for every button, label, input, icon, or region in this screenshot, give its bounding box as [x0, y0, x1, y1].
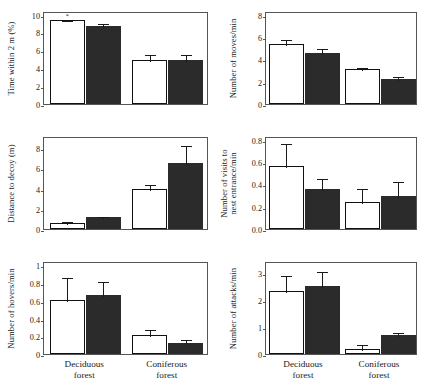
error-bar-stem [398, 77, 399, 81]
bar [345, 202, 380, 229]
panel-number-of-moves: 02468Number of moves/min [0, 0, 429, 391]
error-bar-cap [357, 345, 368, 346]
y-ticklabel: 0.4 [30, 315, 40, 324]
y-tick [263, 164, 266, 165]
y-ticklabel: 0 [36, 351, 40, 360]
x-group-label-line2: forest [283, 370, 322, 381]
y-tick [41, 356, 44, 357]
y-ticklabel: 0.4 [252, 181, 262, 190]
y-axis-ticklabels-number-of-hovers: 00.20.40.60.81 [21, 262, 43, 355]
bar [168, 60, 203, 104]
y-tick [41, 321, 44, 322]
y-axis-title-visits-to-nest-entrance: Number of visits tonest entrance/min [220, 137, 237, 230]
y-tick [41, 52, 44, 53]
error-bar-cap [98, 217, 109, 218]
panel-distance-to-decoy: 02468Distance to decoy (m) [0, 0, 429, 391]
y-ticklabel: 6 [258, 34, 262, 43]
y-ticklabel: 2 [36, 83, 40, 92]
y-axis-ticklabels-distance-to-decoy: 02468 [21, 137, 43, 230]
y-tick [263, 356, 266, 357]
y-ticklabel: 0 [36, 101, 40, 110]
error-bar-stem [150, 185, 151, 191]
error-bar-stem [322, 179, 323, 192]
y-tick [41, 303, 44, 304]
bar [381, 196, 416, 229]
bar [305, 53, 340, 104]
bar [381, 79, 416, 104]
y-ticklabel: 6 [36, 165, 40, 174]
plot-area-visits-to-nest-entrance [265, 137, 417, 230]
plot-area-number-of-moves [265, 12, 417, 105]
bar [168, 163, 203, 229]
x-group-label: Coniferousforest [359, 359, 400, 381]
y-ticklabel: 2 [36, 205, 40, 214]
error-bar-cap [281, 144, 292, 145]
x-group-label-line2: forest [65, 370, 104, 381]
y-axis-title-number-of-hovers: Number of hovers/min [7, 262, 16, 355]
y-tick [41, 70, 44, 71]
x-group-label: Coniferousforest [146, 359, 187, 381]
x-group-label-line1: Deciduous [283, 359, 322, 370]
error-bar-cap [181, 146, 192, 147]
figure-root: *0246810Time within 2 m (%)02468Number o… [0, 0, 429, 391]
bar [50, 300, 85, 354]
bar [132, 335, 167, 354]
bar [132, 189, 167, 229]
error-bar-stem [398, 182, 399, 198]
y-ticklabel: 2 [258, 297, 262, 306]
y-tick [41, 170, 44, 171]
y-ticklabel: 0.6 [30, 297, 40, 306]
x-group-label: Deciduousforest [65, 359, 104, 381]
error-bar-cap [357, 68, 368, 69]
error-bar-stem [362, 68, 363, 71]
error-bar-cap [145, 55, 156, 56]
y-tick [263, 142, 266, 143]
error-bar-cap [393, 333, 404, 334]
y-tick [263, 17, 266, 18]
error-bar-cap [181, 340, 192, 341]
x-group-label-line2: forest [359, 370, 400, 381]
x-group-label: Deciduousforest [283, 359, 322, 381]
panel-time-within-2m: *0246810Time within 2 m (%) [0, 0, 429, 391]
y-axis-title-number-of-moves: Number of moves/min [229, 12, 238, 105]
y-axis-title-time-within-2m: Time within 2 m (%) [7, 12, 16, 105]
error-bar-cap [317, 49, 328, 50]
y-tick [41, 17, 44, 18]
x-group-label-line1: Deciduous [65, 359, 104, 370]
y-tick [263, 302, 266, 303]
y-axis-ticklabels-time-within-2m: 0246810 [21, 12, 43, 105]
error-bar-cap [98, 24, 109, 25]
y-ticklabel: 4 [36, 65, 40, 74]
plot-area-distance-to-decoy [43, 137, 208, 230]
y-tick [41, 191, 44, 192]
y-tick [41, 285, 44, 286]
error-bar-stem [286, 144, 287, 167]
error-bar-cap [181, 55, 192, 56]
bar [345, 349, 380, 354]
panel-number-of-hovers: 00.20.40.60.81Number of hovers/minDecidu… [0, 0, 429, 391]
y-axis-title-number-of-attacks: Number of attacks/min [229, 262, 238, 355]
bar [50, 223, 85, 229]
y-ticklabel: 3 [258, 270, 262, 279]
plot-area-time-within-2m: * [43, 12, 208, 105]
bar [86, 295, 121, 354]
bar [269, 291, 304, 354]
bar [50, 20, 85, 104]
y-tick [41, 338, 44, 339]
y-axis-title-line2: nest entrance/min [229, 137, 238, 230]
error-bar-cap [357, 189, 368, 190]
error-bar-cap [98, 282, 109, 283]
error-bar-stem [322, 49, 323, 56]
error-bar-cap [393, 182, 404, 183]
error-bar-stem [67, 21, 68, 22]
y-ticklabel: 0.8 [252, 136, 262, 145]
error-bar-stem [186, 55, 187, 62]
error-bar-cap [145, 185, 156, 186]
error-bar-stem [286, 276, 287, 293]
error-bar-stem [362, 189, 363, 204]
error-bar-stem [286, 40, 287, 46]
y-tick [263, 231, 266, 232]
y-ticklabel: 0.0 [252, 226, 262, 235]
x-group-label-line1: Coniferous [359, 359, 400, 370]
y-ticklabel: 8 [258, 11, 262, 20]
